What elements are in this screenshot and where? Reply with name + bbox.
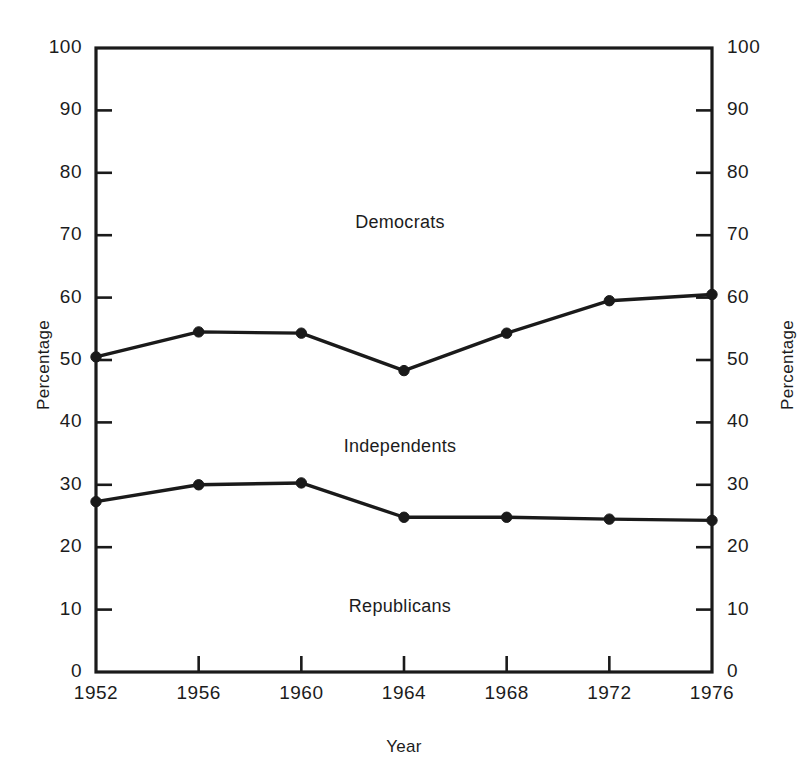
y-tick-label-left-100: 100: [49, 36, 82, 58]
y-tick-label-right-20: 20: [727, 535, 749, 557]
y-tick-label-left-40: 40: [60, 410, 82, 432]
y-axis-ticks-right: [696, 110, 712, 609]
y-tick-label-left-10: 10: [60, 598, 82, 620]
y-tick-label-left-20: 20: [60, 535, 82, 557]
y-tick-label-right-40: 40: [727, 410, 749, 432]
x-axis-ticks: [199, 656, 610, 672]
y-tick-label-left-90: 90: [60, 98, 82, 120]
y-axis-title-left: Percentage: [34, 320, 54, 410]
y-tick-label-right-80: 80: [727, 161, 749, 183]
band-label-republicans: Republicans: [310, 596, 490, 617]
y-tick-label-left-60: 60: [60, 286, 82, 308]
band-label-democrats: Democrats: [310, 212, 490, 233]
x-tick-label-1964: 1964: [378, 682, 430, 704]
x-tick-label-1952: 1952: [70, 682, 122, 704]
y-tick-label-left-80: 80: [60, 161, 82, 183]
x-tick-label-1972: 1972: [583, 682, 635, 704]
y-tick-label-left-50: 50: [60, 348, 82, 370]
x-tick-label-1960: 1960: [275, 682, 327, 704]
y-tick-label-right-90: 90: [727, 98, 749, 120]
x-tick-label-1956: 1956: [173, 682, 225, 704]
y-tick-label-right-70: 70: [727, 223, 749, 245]
x-axis-title: Year: [374, 737, 434, 757]
y-axis-title-right: Percentage: [778, 320, 798, 410]
y-tick-label-right-60: 60: [727, 286, 749, 308]
y-tick-label-left-30: 30: [60, 473, 82, 495]
y-tick-label-right-30: 30: [727, 473, 749, 495]
chart-plot-area: [0, 0, 803, 777]
axis-frame: [96, 48, 712, 672]
band-label-independents: Independents: [310, 436, 490, 457]
y-tick-label-right-10: 10: [727, 598, 749, 620]
y-tick-label-right-0: 0: [727, 660, 738, 682]
y-tick-label-right-50: 50: [727, 348, 749, 370]
y-tick-label-left-0: 0: [71, 660, 82, 682]
data-series-lines: [96, 294, 712, 520]
y-tick-label-right-100: 100: [727, 36, 760, 58]
chart-figure: 1009080706050403020100 10090807060504030…: [0, 0, 803, 777]
x-tick-label-1968: 1968: [481, 682, 533, 704]
y-tick-label-left-70: 70: [60, 223, 82, 245]
x-tick-label-1976: 1976: [686, 682, 738, 704]
data-series-markers: [91, 289, 717, 525]
